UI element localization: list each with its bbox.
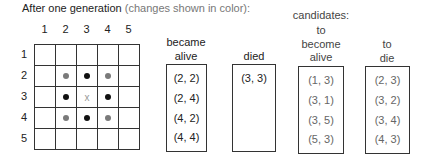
title-note: (changes shown in color): bbox=[125, 2, 250, 14]
born-cell-dot-icon bbox=[105, 115, 111, 121]
grid-cell-5-5 bbox=[119, 129, 140, 150]
list-item: (2, 2) bbox=[174, 72, 200, 92]
live-cell-dot-icon bbox=[63, 94, 69, 100]
live-cell-dot-icon bbox=[105, 94, 111, 100]
became-alive-label-line1: became bbox=[160, 36, 212, 50]
grid-cell-3-1 bbox=[35, 87, 56, 108]
grid-cell-5-2 bbox=[56, 129, 77, 150]
grid-cell-4-3 bbox=[77, 108, 98, 129]
row-label-4: 4 bbox=[18, 111, 30, 123]
list-item: (2, 3) bbox=[375, 74, 401, 94]
grid-cell-2-3 bbox=[77, 66, 98, 87]
life-grid: x bbox=[34, 44, 140, 150]
grid-cell-5-4 bbox=[98, 129, 119, 150]
grid-cell-3-2 bbox=[56, 87, 77, 108]
list-item: (3, 3) bbox=[241, 72, 267, 92]
to-die-line1: to bbox=[360, 38, 414, 52]
grid-cell-5-1 bbox=[35, 129, 56, 150]
grid-cell-4-2 bbox=[56, 108, 77, 129]
died-label: died bbox=[228, 50, 280, 64]
list-item: (5, 3) bbox=[308, 133, 334, 153]
grid-cell-1-4 bbox=[98, 45, 119, 66]
col-label-5: 5 bbox=[118, 23, 139, 35]
born-cell-dot-icon bbox=[63, 115, 69, 121]
list-item: (1, 3) bbox=[308, 74, 334, 94]
grid-cell-3-3: x bbox=[77, 87, 98, 108]
became-alive-list: (2, 2) (2, 4) (4, 2) (4, 4) bbox=[166, 64, 207, 152]
live-cell-dot-icon bbox=[84, 73, 90, 79]
became-alive-label: became alive bbox=[160, 36, 212, 63]
list-item: (3, 2) bbox=[375, 94, 401, 114]
grid-cell-2-4 bbox=[98, 66, 119, 87]
became-alive-label-line2: alive bbox=[160, 50, 212, 64]
list-item: (3, 5) bbox=[308, 114, 334, 134]
row-label-2: 2 bbox=[18, 69, 30, 81]
list-item: (3, 4) bbox=[375, 114, 401, 134]
grid-cell-3-5 bbox=[119, 87, 140, 108]
grid-cell-4-5 bbox=[119, 108, 140, 129]
to-die-line2: die bbox=[360, 52, 414, 66]
grid-cell-1-2 bbox=[56, 45, 77, 66]
list-item: (2, 4) bbox=[174, 92, 200, 112]
diagram-title: After one generation (changes shown in c… bbox=[22, 2, 250, 14]
to-die-list: (2, 3) (3, 2) (3, 4) (4, 3) bbox=[365, 66, 410, 154]
list-item: (3, 1) bbox=[308, 94, 334, 114]
grid-cell-1-5 bbox=[119, 45, 140, 66]
born-cell-dot-icon bbox=[105, 73, 111, 79]
list-item: (4, 3) bbox=[375, 133, 401, 153]
to-become-alive-line3: alive bbox=[294, 51, 348, 65]
grid-cell-4-4 bbox=[98, 108, 119, 129]
to-become-alive-line2: become bbox=[294, 38, 348, 52]
died-cell-x-icon: x bbox=[85, 92, 90, 103]
col-label-2: 2 bbox=[55, 23, 76, 35]
grid-cell-3-4 bbox=[98, 87, 119, 108]
col-label-1: 1 bbox=[34, 23, 55, 35]
list-item: (4, 4) bbox=[174, 131, 200, 151]
grid-cell-1-3 bbox=[77, 45, 98, 66]
grid-cell-4-1 bbox=[35, 108, 56, 129]
grid-cell-1-1 bbox=[35, 45, 56, 66]
live-cell-dot-icon bbox=[84, 115, 90, 121]
grid-cell-2-5 bbox=[119, 66, 140, 87]
game-of-life-diagram: After one generation (changes shown in c… bbox=[0, 0, 429, 164]
list-item: (4, 2) bbox=[174, 112, 200, 132]
born-cell-dot-icon bbox=[63, 73, 69, 79]
candidates-header: candidates: bbox=[284, 9, 358, 23]
to-become-alive-label: to become alive bbox=[294, 24, 348, 65]
to-become-alive-line1: to bbox=[294, 24, 348, 38]
grid-cell-5-3 bbox=[77, 129, 98, 150]
grid-cell-2-1 bbox=[35, 66, 56, 87]
died-list: (3, 3) bbox=[232, 64, 276, 152]
to-die-label: to die bbox=[360, 38, 414, 65]
died-label-line1: died bbox=[228, 50, 280, 64]
row-label-1: 1 bbox=[18, 48, 30, 60]
grid-cell-2-2 bbox=[56, 66, 77, 87]
col-label-3: 3 bbox=[76, 23, 97, 35]
to-become-alive-list: (1, 3) (3, 1) (3, 5) (5, 3) bbox=[298, 66, 344, 154]
row-label-3: 3 bbox=[18, 90, 30, 102]
col-label-4: 4 bbox=[97, 23, 118, 35]
row-label-5: 5 bbox=[18, 132, 30, 144]
title-main: After one generation bbox=[22, 2, 122, 14]
